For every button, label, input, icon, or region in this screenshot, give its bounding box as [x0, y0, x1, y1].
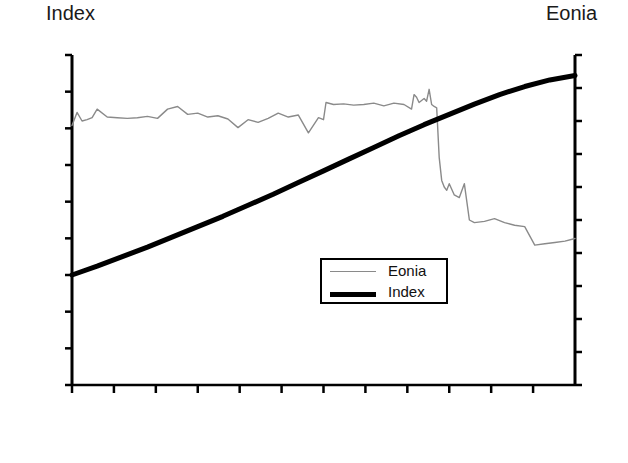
- data-series: [72, 76, 575, 275]
- legend-label-eonia: Eonia: [388, 262, 426, 279]
- legend-swatch-index: [330, 292, 376, 297]
- legend: Eonia Index: [320, 258, 448, 304]
- legend-item-index: Index: [322, 283, 450, 303]
- axes: [65, 55, 582, 393]
- legend-label-index: Index: [388, 283, 425, 300]
- legend-item-eonia: Eonia: [322, 262, 450, 282]
- plot-area: [0, 0, 628, 463]
- legend-swatch-eonia: [330, 271, 376, 272]
- chart-container: Index Eonia Eonia Index: [0, 0, 628, 463]
